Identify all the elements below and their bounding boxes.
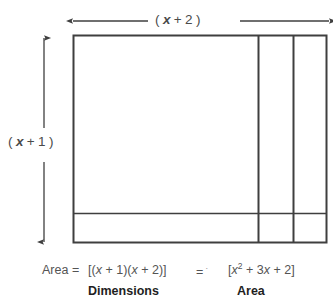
area-expr-close: ] (291, 263, 294, 277)
height-operator: + (27, 134, 35, 149)
dim-expr-c2: 2 (152, 263, 159, 277)
area-expr-plus-1: + (246, 263, 253, 277)
width-variable: x (163, 12, 171, 27)
equals-stray-mark: · (203, 263, 208, 273)
width-constant: 2 (185, 12, 193, 27)
area-expr-exponent: 2 (238, 261, 243, 271)
area-model-figure: ( x + 2 ) ( x + 1 ) Area = [(x + 1)(x + … (0, 0, 333, 307)
width-close-paren: ) (196, 12, 201, 27)
dim-expr-x1: x (96, 263, 102, 277)
height-close-paren: ) (49, 134, 54, 149)
height-dimension-label: ( x + 1 ) (6, 132, 56, 152)
equation-area-word: Area = (42, 264, 79, 277)
area-model-diagram (0, 0, 333, 307)
equation-area-expression: [x2 + 3x + 2] (228, 264, 295, 277)
area-expr-coefficient: 3 (257, 263, 264, 277)
caption-row: Dimensions Area (0, 285, 333, 303)
width-operator: + (174, 12, 182, 27)
height-constant: 1 (38, 134, 46, 149)
caption-dimensions: Dimensions (88, 285, 159, 298)
caption-area: Area (237, 285, 265, 298)
equation-dimensions-expression: [(x + 1)(x + 2)] (88, 264, 167, 277)
area-rectangle-outline (74, 36, 327, 243)
area-expr-linear-x: x (264, 263, 270, 277)
dim-expr-open: [( (88, 263, 96, 277)
dim-expr-op1: + (105, 263, 112, 277)
area-expr-plus-2: + (273, 263, 280, 277)
dim-expr-op2: + (141, 263, 148, 277)
dim-expr-x2: x (131, 263, 137, 277)
width-dimension-label: ( x + 2 ) (150, 13, 206, 27)
dim-expr-close: )] (159, 263, 167, 277)
equation-row: Area = [(x + 1)(x + 2)] =· [x2 + 3x + 2] (0, 262, 333, 280)
height-variable: x (16, 134, 24, 149)
equation-equals-sign: =· (196, 264, 208, 279)
